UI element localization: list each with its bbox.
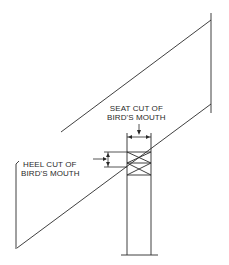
birds-mouth-diagram — [0, 0, 229, 265]
heel-arrow-down-icon — [106, 162, 110, 166]
rafter — [16, 13, 211, 249]
heel-cut-label-line1: HEEL CUT OF — [21, 160, 80, 169]
heel-leader-arrow-icon — [103, 157, 107, 161]
heel-arrow-up-icon — [106, 153, 110, 157]
heel-cut-dimension — [93, 152, 127, 167]
seat-cut-dimension — [127, 124, 151, 139]
seat-leader-arrow-icon — [137, 130, 141, 135]
rafter-left-corner — [16, 161, 19, 164]
heel-cut-label-line2: BIRD'S MOUTH — [21, 169, 80, 178]
top-plate-post — [121, 133, 158, 255]
seat-arrow-right-icon — [146, 135, 150, 139]
seat-cut-label: SEAT CUT OF BIRD'S MOUTH — [107, 104, 166, 122]
seat-cut-label-line1: SEAT CUT OF — [107, 104, 166, 113]
seat-cut-label-line2: BIRD'S MOUTH — [107, 113, 166, 122]
seat-arrow-left-icon — [128, 135, 132, 139]
heel-cut-label: HEEL CUT OF BIRD'S MOUTH — [21, 160, 80, 178]
